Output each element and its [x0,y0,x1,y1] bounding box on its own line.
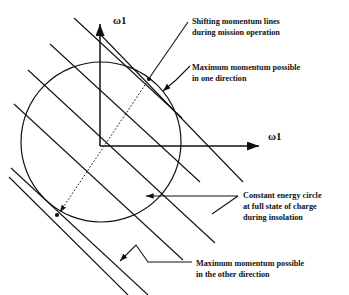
annotation-line: Maximum momentum possible [196,258,304,269]
momentum-line-5 [11,168,148,295]
annotation-maximum-momentum-one-direction: Maximum momentum possible in one directi… [192,62,300,84]
leader-shifting-momentum-lines [150,22,188,77]
annotation-line: at full state of charge [243,201,322,212]
annotation-line: Maximum momentum possible [192,62,300,73]
annotation-line: during insolation [243,212,322,223]
annotation-maximum-momentum-other-direction: Maximum momentum possible in the other d… [196,258,304,280]
annotation-shifting-momentum-lines: Shifting momentum lines during mission o… [192,16,280,38]
horizontal-axis-label: ω1 [268,130,282,142]
diagram-canvas [0,0,349,295]
momentum-line-4 [14,104,183,260]
vertical-axis-label: ω1 [113,14,127,26]
annotation-line: Constant energy circle [243,190,322,201]
shifting-momentum-lines-group [11,18,215,295]
momentum-line-3 [28,70,215,243]
maximum-momentum-line-other-direction [9,177,128,295]
annotation-line: in the other direction [196,269,304,280]
tangent-point-upper [147,77,151,81]
annotation-line: Shifting momentum lines [192,16,280,27]
momentum-envelope-diagram: ω1 ω1 Shifting momentum lines during mis… [0,0,349,295]
leader-constant-energy-circle-tail [212,196,238,214]
momentum-line-1 [74,18,182,118]
annotation-line: during mission operation [192,27,280,38]
leader-maximum-momentum-one-direction [163,66,190,91]
tangent-point-lower [55,213,59,217]
annotation-constant-energy-circle: Constant energy circle at full state of … [243,190,322,223]
maximum-momentum-line-one-direction [98,32,243,182]
leader-maximum-momentum-other-direction [120,245,192,262]
annotation-line: in one direction [192,73,300,84]
